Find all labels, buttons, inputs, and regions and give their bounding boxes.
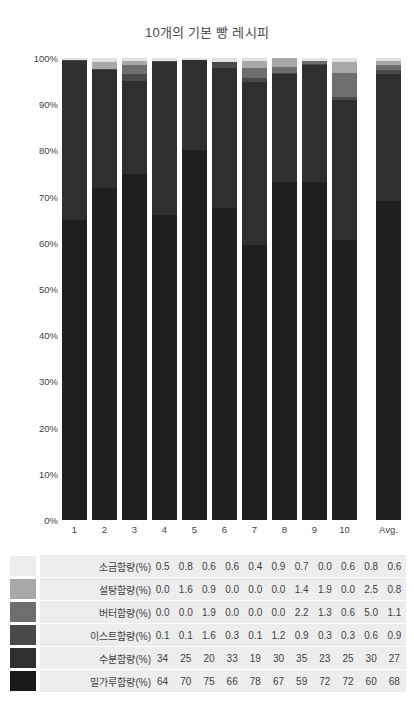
bar-column[interactable] [242, 58, 267, 520]
y-axis-tick-label: 10% [10, 468, 58, 479]
legend-data-table: 소금함량(%)0.50.80.60.60.40.90.70.00.60.80.6… [10, 554, 406, 693]
bar-segment [242, 68, 267, 78]
bar-segment [376, 74, 401, 201]
legend-value-cell: 0.8 [174, 555, 197, 577]
bar-segment [332, 62, 357, 74]
bar-segment [92, 188, 117, 520]
bar-segment [302, 65, 327, 182]
bar-segment [62, 61, 87, 220]
bar-segment [332, 100, 357, 240]
bar-column[interactable] [122, 58, 147, 520]
legend-value-cell: 0.3 [221, 624, 244, 646]
legend-value-cell: 1.1 [383, 601, 406, 623]
bar-segment [182, 150, 207, 520]
legend-value-cell: 64 [151, 670, 174, 692]
bar-segment [242, 245, 267, 520]
legend-value-cell: 0.5 [151, 555, 174, 577]
bar-segment [212, 68, 237, 208]
legend-value-cell: 30 [267, 647, 290, 669]
legend-value-cell: 19 [244, 647, 267, 669]
legend-table-row: 소금함량(%)0.50.80.60.60.40.90.70.00.60.80.6 [10, 555, 406, 577]
legend-value-cell: 0.0 [244, 578, 267, 600]
legend-color-swatch [10, 625, 36, 645]
bar-column[interactable] [272, 58, 297, 520]
legend-value-cell: 0.6 [336, 601, 359, 623]
legend-value-cell: 0.0 [221, 601, 244, 623]
bar-column[interactable] [376, 58, 401, 520]
legend-value-cell: 0.6 [221, 555, 244, 577]
legend-value-cell: 0.9 [383, 624, 406, 646]
legend-value-cell: 30 [360, 647, 383, 669]
legend-value-cell: 0.6 [383, 555, 406, 577]
legend-color-swatch [10, 671, 36, 691]
legend-value-cell: 0.6 [197, 555, 220, 577]
bar-segment [332, 73, 357, 96]
legend-color-swatch [10, 602, 36, 622]
legend-value-cell: 0.0 [151, 578, 174, 600]
legend-value-cell: 0.0 [174, 601, 197, 623]
y-axis-tick-label: 20% [10, 422, 58, 433]
bar-column[interactable] [332, 58, 357, 520]
bar-segment [272, 182, 297, 520]
bar-column[interactable] [212, 58, 237, 520]
stacked-bar-chart: 0%10%20%30%40%50%60%70%80%90%100%1234567… [0, 0, 414, 545]
legend-value-cell: 60 [360, 670, 383, 692]
y-axis-tick-label: 50% [10, 284, 58, 295]
legend-row-label: 설탕함량(%) [40, 578, 151, 600]
legend-value-cell: 67 [267, 670, 290, 692]
legend-table-row: 밀가루함량(%)6470756678675972726068 [10, 670, 406, 692]
bar-segment [122, 81, 147, 173]
legend-swatch-cell [10, 624, 40, 646]
bar-segment [62, 220, 87, 520]
bar-column[interactable] [152, 58, 177, 520]
legend-value-cell: 25 [174, 647, 197, 669]
y-axis-tick-label: 0% [10, 515, 58, 526]
legend-color-swatch [10, 556, 36, 576]
legend-value-cell: 0.0 [313, 555, 336, 577]
bar-column[interactable] [92, 58, 117, 520]
bar-column[interactable] [62, 58, 87, 520]
x-axis-tick-label: 6 [212, 524, 237, 535]
legend-color-swatch [10, 648, 36, 668]
legend-swatch-cell [10, 670, 40, 692]
x-axis-tick-label: 2 [92, 524, 117, 535]
legend-value-cell: 66 [221, 670, 244, 692]
legend-value-cell: 0.0 [244, 601, 267, 623]
bar-segment [332, 240, 357, 520]
legend-table-row: 버터함량(%)0.00.01.90.00.00.02.21.30.65.01.1 [10, 601, 406, 623]
y-axis-tick-label: 40% [10, 330, 58, 341]
legend-value-cell: 0.8 [383, 578, 406, 600]
legend-value-cell: 75 [197, 670, 220, 692]
bar-column[interactable] [302, 58, 327, 520]
bar-segment [182, 60, 207, 150]
legend-swatch-cell [10, 647, 40, 669]
legend-value-cell: 0.7 [290, 555, 313, 577]
legend-value-cell: 5.0 [360, 601, 383, 623]
legend-value-cell: 0.1 [244, 624, 267, 646]
legend-swatch-cell [10, 601, 40, 623]
bar-segment [152, 62, 177, 215]
legend-value-cell: 72 [336, 670, 359, 692]
bar-segment [272, 74, 297, 182]
x-axis-tick-label: 3 [122, 524, 147, 535]
bar-segment [92, 62, 117, 70]
legend-value-cell: 25 [336, 647, 359, 669]
legend-value-cell: 33 [221, 647, 244, 669]
x-axis-tick-label: 7 [242, 524, 267, 535]
legend-value-cell: 70 [174, 670, 197, 692]
legend-value-cell: 35 [290, 647, 313, 669]
bar-column[interactable] [182, 58, 207, 520]
legend-value-cell: 0.3 [336, 624, 359, 646]
plot-area [62, 58, 406, 520]
legend-value-cell: 23 [313, 647, 336, 669]
x-axis-tick-label: 1 [62, 524, 87, 535]
legend-value-cell: 0.3 [313, 624, 336, 646]
legend-value-cell: 0.0 [267, 578, 290, 600]
bar-segment [122, 74, 147, 81]
bar-segment [242, 82, 267, 245]
legend-value-cell: 0.9 [197, 578, 220, 600]
legend-value-cell: 1.6 [174, 578, 197, 600]
legend-value-cell: 0.6 [336, 555, 359, 577]
legend-value-cell: 1.2 [267, 624, 290, 646]
legend-value-cell: 0.1 [151, 624, 174, 646]
